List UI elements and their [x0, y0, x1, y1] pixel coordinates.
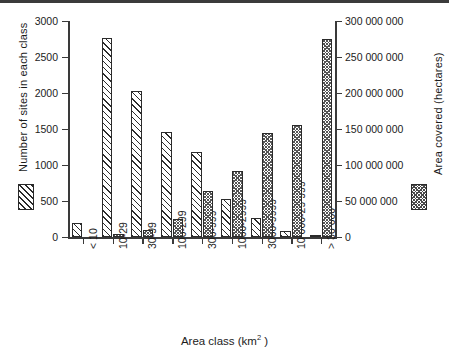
right-tick-label: 300 000 000	[345, 16, 403, 27]
left-tick-label: 2500	[35, 52, 58, 63]
left-tick-label: 0	[52, 232, 58, 243]
x-axis-title: Area class (km2 )	[0, 333, 449, 347]
x-tick	[291, 238, 292, 244]
left-tick-label: 2000	[35, 88, 58, 99]
bar-sites	[310, 235, 321, 237]
left-tick-label: 500	[40, 196, 58, 207]
x-axis-title-main: Area class (km	[181, 335, 257, 347]
right-tick	[336, 165, 342, 166]
x-tick	[113, 238, 114, 244]
right-tick	[336, 129, 342, 130]
left-axis-label: Number of sites in each class	[17, 23, 29, 172]
bar-sites	[221, 199, 232, 237]
right-tick	[336, 201, 342, 202]
right-tick-label: 50 000 000	[345, 196, 398, 207]
left-tick-label: 1500	[35, 124, 58, 135]
left-tick-label: 3000	[35, 16, 58, 27]
x-tick	[232, 238, 233, 244]
bar-area	[143, 230, 154, 237]
right-tick	[336, 57, 342, 58]
x-tick	[321, 238, 322, 244]
right-tick	[336, 21, 342, 22]
bar-sites	[280, 231, 291, 237]
bar-area	[113, 234, 124, 237]
bar-area	[173, 219, 184, 237]
right-tick-label: 250 000 000	[345, 52, 403, 63]
right-tick-label: 150 000 000	[345, 124, 403, 135]
x-tick	[142, 238, 143, 244]
bar-area	[322, 39, 333, 237]
right-tick-label: 200 000 000	[345, 88, 403, 99]
legend-swatch-sites	[18, 184, 34, 210]
x-tick	[202, 238, 203, 244]
right-axis-label: Area covered (hectares)	[432, 52, 444, 175]
bar-sites	[191, 152, 202, 237]
x-tick	[262, 238, 263, 244]
bar-area	[292, 125, 303, 237]
bar-area	[203, 191, 214, 237]
bar-area	[262, 133, 273, 237]
bars-group	[68, 21, 336, 237]
bar-sites	[161, 132, 172, 237]
right-tick-label: 100 000 000	[345, 160, 403, 171]
bar-sites	[131, 91, 142, 237]
bar-sites	[251, 218, 262, 237]
bar-area	[232, 171, 243, 237]
right-tick-label: 0	[345, 232, 351, 243]
chart-figure: Number of sites in each class Area cover…	[0, 0, 449, 353]
x-tick	[172, 238, 173, 244]
right-tick	[336, 93, 342, 94]
left-tick-label: 1000	[35, 160, 58, 171]
bar-sites	[72, 223, 83, 237]
x-axis-title-tail: )	[261, 335, 268, 347]
legend-swatch-area	[411, 184, 427, 210]
bar-sites	[102, 38, 113, 237]
x-tick	[83, 238, 84, 244]
